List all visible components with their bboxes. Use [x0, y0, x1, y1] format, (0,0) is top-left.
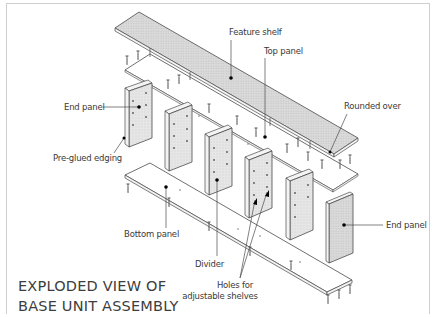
label-rounded-over: Rounded over [344, 101, 401, 111]
label-divider: Divider [195, 259, 224, 269]
end-panel-left [125, 80, 152, 147]
end-panel-right [326, 192, 353, 263]
label-top-panel: Top panel [264, 46, 303, 56]
divider-4 [286, 169, 313, 240]
label-bottom-panel: Bottom panel [124, 229, 179, 239]
divider-2 [205, 125, 232, 195]
title-line-2: BASE UNIT ASSEMBLY [18, 296, 179, 316]
divider-3 [245, 148, 272, 218]
label-holes: Holes for adjustable shelves [178, 280, 262, 302]
diagram-title: EXPLODED VIEW OF BASE UNIT ASSEMBLY [18, 276, 179, 316]
label-end-panel-right: End panel [386, 220, 427, 230]
label-holes-line2: adjustable shelves [178, 291, 262, 302]
label-feature-shelf: Feature shelf [229, 27, 282, 37]
label-holes-line1: Holes for [178, 280, 262, 291]
title-line-1: EXPLODED VIEW OF [18, 276, 179, 296]
divider-1 [165, 102, 192, 171]
label-pre-glued-edging: Pre-glued edging [53, 153, 122, 163]
label-end-panel-left: End panel [64, 102, 105, 112]
